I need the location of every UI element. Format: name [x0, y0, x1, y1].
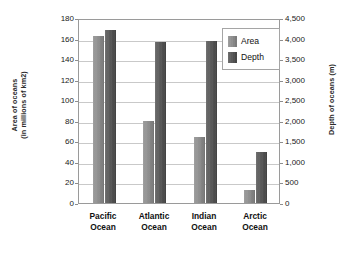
y-axis-right-tick-mark	[280, 40, 283, 41]
y-axis-left-tick-label: 140	[48, 56, 74, 64]
x-axis-category-label: ArcticOcean	[224, 211, 286, 233]
y-axis-left-tick-label: 160	[48, 36, 74, 44]
y-axis-left-title-line1: Area of oceans	[10, 50, 19, 160]
y-axis-right-tick-label: 3,500	[285, 56, 317, 64]
y-axis-left-tick-label: 60	[48, 138, 74, 146]
bar-area[interactable]	[143, 121, 154, 203]
y-axis-right-tick-label: 2,500	[285, 97, 317, 105]
y-axis-right-tick-mark	[280, 19, 283, 20]
y-axis-left-tick-label: 100	[48, 97, 74, 105]
y-axis-right-tick-mark	[280, 60, 283, 61]
bar-group	[143, 20, 166, 203]
bar-group	[93, 20, 116, 203]
y-axis-right-tick-mark	[280, 142, 283, 143]
bar-chart: Area of oceans (in millions of km2) Dept…	[0, 0, 353, 255]
legend-item-area[interactable]: Area	[228, 33, 279, 49]
y-axis-right-title: Depth of oceans (m)	[327, 45, 336, 155]
y-axis-left-tick-label: 40	[48, 159, 74, 167]
y-axis-right-tick-label: 4,500	[285, 15, 317, 23]
y-axis-right-tick-label: 1,000	[285, 159, 317, 167]
y-axis-right-tick-mark	[280, 183, 283, 184]
legend: Area Depth	[222, 28, 280, 70]
x-axis-category-label-line: Arctic	[224, 211, 286, 222]
y-axis-left-tick-label: 120	[48, 77, 74, 85]
x-axis-category-label-line: Ocean	[224, 222, 286, 233]
y-axis-right-tick-label: 3,000	[285, 77, 317, 85]
y-axis-right-tick-mark	[280, 81, 283, 82]
bar-depth[interactable]	[155, 42, 166, 203]
y-axis-right-tick-label: 4,000	[285, 36, 317, 44]
y-axis-left-tick-label: 180	[48, 15, 74, 23]
bar-depth[interactable]	[105, 30, 116, 203]
y-axis-left-tick-label: 80	[48, 118, 74, 126]
bar-depth[interactable]	[206, 41, 217, 203]
y-axis-right-tick-label: 500	[285, 179, 317, 187]
bar-group	[194, 20, 217, 203]
y-axis-right-tick-label: 1,500	[285, 138, 317, 146]
y-axis-right-tick-label: 2,000	[285, 118, 317, 126]
y-axis-right-tick-mark	[280, 122, 283, 123]
bar-area[interactable]	[194, 137, 205, 203]
y-axis-left-title-line2: (in millions of km2)	[19, 50, 28, 160]
legend-label-area: Area	[241, 36, 259, 46]
y-axis-right-tick-mark	[280, 204, 283, 205]
legend-item-depth[interactable]: Depth	[228, 49, 279, 65]
bar-depth[interactable]	[256, 152, 267, 203]
y-axis-right-tick-label: 0	[285, 200, 317, 208]
legend-swatch-depth-icon	[228, 52, 237, 63]
y-axis-left-tick-label: 20	[48, 179, 74, 187]
y-axis-left-tick-mark	[75, 204, 78, 205]
y-axis-right-tick-mark	[280, 163, 283, 164]
legend-label-depth: Depth	[241, 52, 264, 62]
y-axis-left-tick-label: 0	[48, 200, 74, 208]
bar-area[interactable]	[244, 190, 255, 203]
bar-area[interactable]	[93, 36, 104, 203]
y-axis-left-title: Area of oceans (in millions of km2)	[10, 50, 28, 160]
legend-swatch-area-icon	[228, 36, 237, 47]
y-axis-right-tick-mark	[280, 101, 283, 102]
